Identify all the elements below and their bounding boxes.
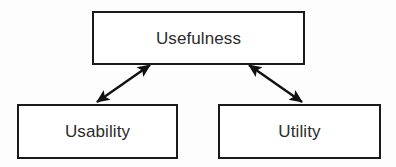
edge-usefulness-usability [97, 65, 150, 102]
node-usefulness-label: Usefulness [156, 30, 241, 47]
node-usability[interactable]: Usability [17, 104, 178, 159]
node-usability-label: Usability [65, 123, 130, 140]
node-utility[interactable]: Utility [218, 104, 381, 159]
diagram-canvas: Usefulness Usability Utility [0, 0, 396, 167]
edge-usefulness-utility [249, 65, 302, 102]
node-utility-label: Utility [278, 123, 320, 140]
node-usefulness[interactable]: Usefulness [92, 11, 305, 65]
